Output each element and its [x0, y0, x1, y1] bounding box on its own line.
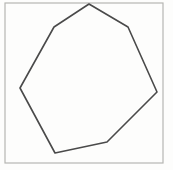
figure-canvas [0, 0, 173, 170]
figure-background [0, 0, 173, 170]
figure-panel [0, 0, 173, 170]
